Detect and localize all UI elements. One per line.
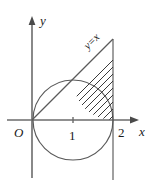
x-axis-arrowhead [130, 117, 139, 124]
figure-canvas: y x O 1 2 y=x [0, 0, 152, 182]
y-axis-arrowhead [29, 16, 36, 25]
y-axis-label: y [38, 13, 46, 28]
origin-label: O [14, 125, 24, 140]
y-axis [29, 16, 36, 178]
tick-label-two: 2 [118, 125, 125, 140]
tick-label-one: 1 [69, 128, 76, 143]
hatched-region [60, 48, 125, 182]
math-figure: y x O 1 2 y=x [0, 0, 152, 182]
x-axis-label: x [138, 124, 145, 139]
line-equation-label: y=x [80, 31, 101, 52]
